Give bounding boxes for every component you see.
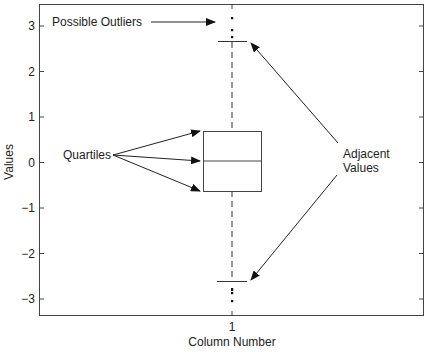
annotation-possible-outliers: Possible Outliers [52,15,142,29]
annotation-adjacent-line2: Values [343,161,379,175]
outlier-points [231,17,233,302]
annotation-adjacent-line1: Adjacent [343,147,390,161]
box-plot-chart: 3 2 1 0 −1 −2 −3 1 Column Number Values … [0,0,429,352]
quartile-arrows [113,131,200,191]
adjacent-arrows [251,43,338,280]
x-axis-label: Column Number [188,335,275,349]
annotation-quartiles: Quartiles [63,148,111,162]
y-axis-label: Values [2,144,16,180]
ytick-1: 1 [28,110,35,124]
ytick-3: 3 [28,19,35,33]
ytick-0: 0 [28,156,35,170]
ytick-2: 2 [28,65,35,79]
y-tick-labels: 3 2 1 0 −1 −2 −3 [21,19,35,306]
ytick-neg3: −3 [21,292,35,306]
ytick-neg1: −1 [21,201,35,215]
ytick-neg2: −2 [21,247,35,261]
xtick-1: 1 [229,320,236,334]
